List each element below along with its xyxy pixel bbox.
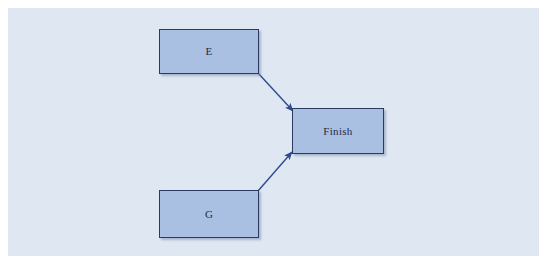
- diagram-canvas-panel: [8, 8, 539, 256]
- diagram-root: E Finish G: [0, 0, 550, 271]
- node-g-label: G: [205, 209, 213, 220]
- node-finish[interactable]: Finish: [292, 108, 384, 154]
- node-e[interactable]: E: [159, 29, 259, 74]
- node-finish-label: Finish: [323, 126, 352, 137]
- node-g[interactable]: G: [159, 190, 259, 238]
- node-e-label: E: [205, 46, 212, 57]
